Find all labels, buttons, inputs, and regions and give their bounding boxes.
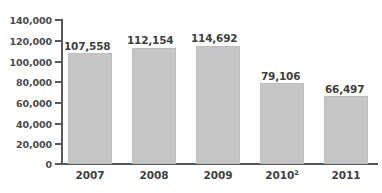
y-tick-label-0: 0 (0, 159, 52, 170)
y-tick-mark-40000 (55, 123, 62, 125)
x-axis-label-2010-footnote: 2 (294, 169, 298, 177)
bar-value-2008: 112,154 (127, 34, 173, 46)
bar-value-2009: 114,692 (191, 32, 237, 44)
bar-value-2010: 79,106 (261, 70, 300, 82)
y-tick-label-100000: 100,000 (0, 57, 52, 68)
y-tick-label-140000: 140,000 (0, 15, 52, 26)
y-tick-mark-60000 (55, 102, 62, 104)
x-axis-label-2011: 2011 (324, 169, 368, 181)
bar-2011 (324, 96, 368, 164)
y-tick-mark-120000 (55, 40, 62, 42)
y-tick-mark-140000 (55, 19, 62, 21)
bar-2009 (196, 46, 240, 164)
y-tick-label-120000: 120,000 (0, 36, 52, 47)
y-tick-mark-80000 (55, 81, 62, 83)
bar-value-2011: 66,497 (325, 83, 364, 95)
y-tick-label-60000: 60,000 (0, 98, 52, 109)
y-tick-mark-20000 (55, 143, 62, 145)
y-tick-mark-0 (55, 163, 62, 165)
y-tick-label-20000: 20,000 (0, 139, 52, 150)
y-tick-label-80000: 80,000 (0, 77, 52, 88)
bar-value-2007: 107,558 (64, 40, 110, 52)
bar-2010 (260, 83, 304, 164)
x-axis-label-2010: 20102 (258, 169, 306, 181)
x-axis-label-2009: 2009 (196, 169, 240, 181)
plot-area: 140,000 120,000 100,000 80,000 60,000 40… (0, 0, 382, 193)
bar-chart: 140,000 120,000 100,000 80,000 60,000 40… (0, 0, 382, 193)
x-axis-label-2008: 2008 (132, 169, 176, 181)
y-tick-mark-100000 (55, 61, 62, 63)
y-tick-label-40000: 40,000 (0, 119, 52, 130)
bar-2008 (132, 48, 176, 164)
bar-2007 (68, 53, 112, 164)
x-axis-label-2007: 2007 (68, 169, 112, 181)
x-axis-label-2010-text: 2010 (265, 169, 294, 181)
